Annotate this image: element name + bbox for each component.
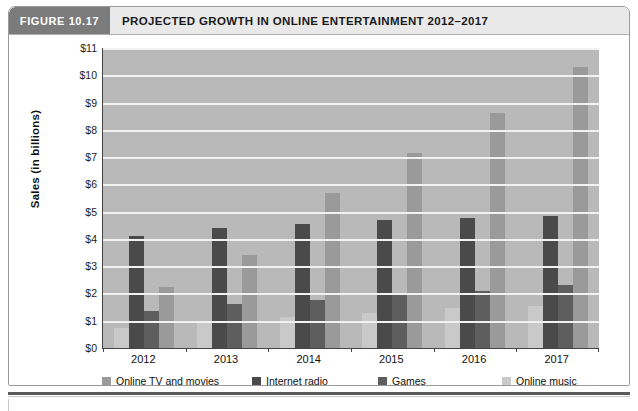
figure-header: FIGURE 10.17 PROJECTED GROWTH IN ONLINE … bbox=[9, 7, 629, 35]
x-axis-tick bbox=[103, 348, 104, 352]
legend-label: Internet radio bbox=[266, 375, 328, 386]
bar bbox=[407, 153, 422, 348]
bar bbox=[573, 67, 588, 348]
x-tick-label: 2015 bbox=[350, 353, 433, 365]
x-tick-label: 2013 bbox=[185, 353, 268, 365]
legend-label: Online TV and movies bbox=[116, 375, 219, 386]
gridline bbox=[103, 212, 599, 214]
y-tick-label: $10 bbox=[79, 69, 97, 81]
x-tick-label: 2014 bbox=[267, 353, 350, 365]
x-axis-labels: 201220132014201520162017 bbox=[102, 353, 598, 365]
gridline bbox=[103, 293, 599, 295]
figure-number-badge: FIGURE 10.17 bbox=[9, 7, 110, 34]
bar bbox=[129, 236, 144, 348]
gridline bbox=[103, 266, 599, 268]
y-tick-label: $5 bbox=[85, 206, 97, 218]
y-tick-label: $7 bbox=[85, 151, 97, 163]
bar bbox=[310, 300, 325, 348]
x-tick-label: 2017 bbox=[515, 353, 598, 365]
legend-swatch bbox=[502, 377, 511, 386]
bar bbox=[445, 308, 460, 348]
y-axis-ticks: $11$10$9$8$7$6$5$4$3$2$1$0 bbox=[53, 35, 97, 386]
bar-group bbox=[351, 48, 434, 348]
bar-group bbox=[434, 48, 517, 348]
bar bbox=[295, 224, 310, 348]
footer-rule bbox=[8, 392, 630, 395]
bar bbox=[528, 306, 543, 348]
bar-group bbox=[516, 48, 599, 348]
legend-swatch bbox=[102, 377, 111, 386]
gridline bbox=[103, 130, 599, 132]
footer-edge bbox=[8, 399, 9, 411]
y-tick-label: $11 bbox=[80, 42, 97, 54]
bar bbox=[325, 193, 340, 348]
bar bbox=[543, 216, 558, 348]
gridline bbox=[103, 184, 599, 186]
gridline bbox=[103, 75, 599, 77]
gridline bbox=[103, 157, 599, 159]
legend-item[interactable]: Online music bbox=[502, 375, 577, 386]
bar-group bbox=[186, 48, 269, 348]
bar bbox=[197, 322, 212, 348]
bar bbox=[212, 228, 227, 348]
y-tick-label: $9 bbox=[85, 97, 97, 109]
bar bbox=[242, 255, 257, 348]
legend-label: Games bbox=[392, 375, 426, 386]
gridline bbox=[103, 103, 599, 105]
legend-label: Online music bbox=[516, 375, 577, 386]
footer-rule-light bbox=[8, 396, 630, 397]
legend-swatch bbox=[252, 377, 261, 386]
bar bbox=[114, 328, 129, 348]
chart-legend: Online TV and moviesInternet radioGamesO… bbox=[102, 375, 617, 386]
figure-card: FIGURE 10.17 PROJECTED GROWTH IN ONLINE … bbox=[8, 6, 630, 386]
y-tick-label: $8 bbox=[85, 124, 97, 136]
x-axis-tick bbox=[351, 348, 352, 352]
bar-group bbox=[268, 48, 351, 348]
y-tick-label: $6 bbox=[85, 178, 97, 190]
gridline bbox=[103, 48, 599, 50]
bar bbox=[159, 287, 174, 348]
x-axis-tick bbox=[434, 348, 435, 352]
x-axis-tick bbox=[598, 348, 599, 352]
bar-groups bbox=[103, 48, 599, 348]
gridline bbox=[103, 239, 599, 241]
gridline bbox=[103, 321, 599, 323]
x-axis-tick bbox=[516, 348, 517, 352]
x-tick-label: 2012 bbox=[102, 353, 185, 365]
figure-title: PROJECTED GROWTH IN ONLINE ENTERTAINMENT… bbox=[122, 7, 488, 34]
x-axis-tick bbox=[268, 348, 269, 352]
bar-group bbox=[103, 48, 186, 348]
plot-area bbox=[102, 48, 599, 349]
bar bbox=[490, 113, 505, 348]
y-tick-label: $0 bbox=[85, 342, 97, 354]
legend-item[interactable]: Games bbox=[378, 375, 426, 386]
legend-item[interactable]: Internet radio bbox=[252, 375, 328, 386]
bar bbox=[227, 304, 242, 348]
bar bbox=[460, 218, 475, 348]
bar bbox=[144, 311, 159, 348]
legend-item[interactable]: Online TV and movies bbox=[102, 375, 219, 386]
bar bbox=[475, 291, 490, 348]
y-tick-label: $3 bbox=[85, 260, 97, 272]
x-tick-label: 2016 bbox=[433, 353, 516, 365]
legend-swatch bbox=[378, 377, 387, 386]
bar bbox=[362, 313, 377, 348]
chart-area: Sales (in billions) $11$10$9$8$7$6$5$4$3… bbox=[9, 35, 629, 386]
y-tick-label: $2 bbox=[85, 287, 97, 299]
y-axis-label: Sales (in billions) bbox=[29, 89, 41, 229]
y-tick-label: $4 bbox=[85, 233, 97, 245]
x-axis-tick bbox=[186, 348, 187, 352]
y-tick-label: $1 bbox=[85, 315, 97, 327]
